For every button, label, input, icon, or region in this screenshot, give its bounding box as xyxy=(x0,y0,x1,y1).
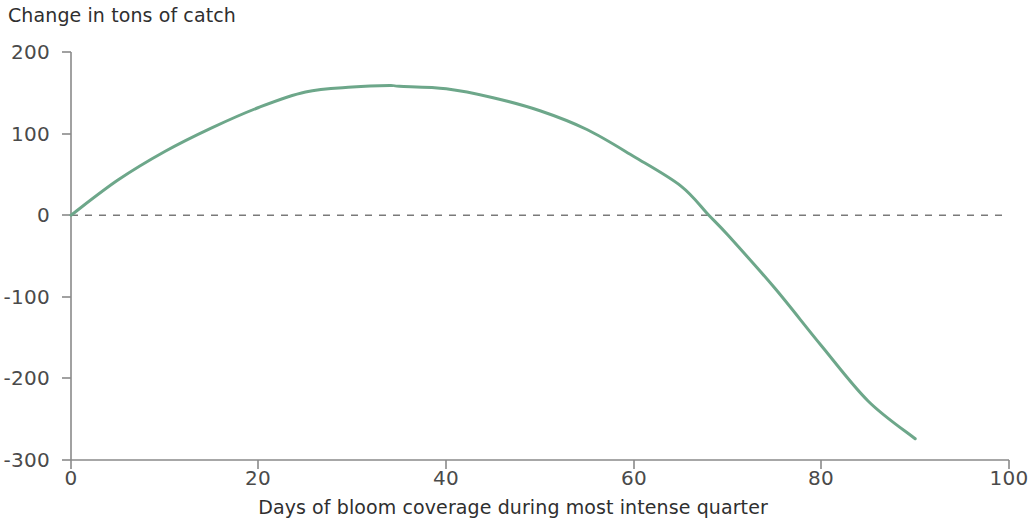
x-tick-label: 20 xyxy=(245,466,271,490)
y-tick-label: -300 xyxy=(0,448,50,472)
data-series-line xyxy=(71,85,915,438)
x-tick-label: 100 xyxy=(989,466,1028,490)
y-tick-label: -200 xyxy=(0,366,50,390)
x-tick-marks xyxy=(71,460,1009,469)
y-tick-label: 100 xyxy=(0,122,50,146)
y-tick-marks xyxy=(62,52,71,460)
x-tick-label: 80 xyxy=(808,466,834,490)
x-tick-label: 60 xyxy=(621,466,647,490)
x-tick-label: 40 xyxy=(433,466,459,490)
y-tick-label: 0 xyxy=(0,203,50,227)
x-tick-label: 0 xyxy=(64,466,77,490)
x-axis-title: Days of bloom coverage during most inten… xyxy=(0,496,1026,518)
y-tick-label: 200 xyxy=(0,40,50,64)
y-tick-label: -100 xyxy=(0,285,50,309)
